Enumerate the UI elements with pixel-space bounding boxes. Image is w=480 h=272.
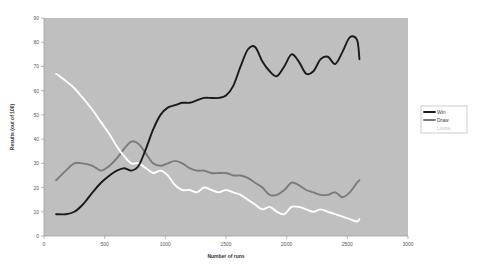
y-tick-label-2: 20 bbox=[33, 185, 39, 191]
y-tick-label-8: 80 bbox=[33, 39, 39, 45]
x-axis-title: Number of runs bbox=[207, 253, 244, 259]
y-axis-title: Results (out of 100) bbox=[9, 103, 15, 150]
legend-label-loose[interactable]: Loose bbox=[437, 125, 451, 131]
y-tick-label-1: 10 bbox=[33, 209, 39, 215]
x-tick-label-3: 1500 bbox=[220, 241, 231, 247]
legend-label-win[interactable]: Win bbox=[437, 109, 446, 115]
y-tick-label-9: 90 bbox=[33, 15, 39, 21]
y-tick-label-6: 60 bbox=[33, 88, 39, 94]
y-tick-label-3: 30 bbox=[33, 160, 39, 166]
legend-label-draw[interactable]: Draw bbox=[437, 117, 449, 123]
y-tick-label-4: 40 bbox=[33, 136, 39, 142]
x-tick-label-4: 2000 bbox=[281, 241, 292, 247]
y-tick-label-0: 0 bbox=[36, 233, 39, 239]
line-chart: 0102030405060708090 05001000150020002500… bbox=[0, 0, 480, 272]
y-tick-label-5: 50 bbox=[33, 112, 39, 118]
legend[interactable]: WinDrawLoose bbox=[421, 106, 467, 133]
y-tick-label-7: 70 bbox=[33, 63, 39, 69]
x-tick-label-1: 500 bbox=[100, 241, 109, 247]
x-tick-label-2: 1000 bbox=[160, 241, 171, 247]
x-tick-label-0: 0 bbox=[43, 241, 46, 247]
x-tick-label-5: 2500 bbox=[342, 241, 353, 247]
plot-area-background bbox=[44, 18, 408, 236]
x-tick-label-6: 3000 bbox=[402, 241, 413, 247]
chart-container: 0102030405060708090 05001000150020002500… bbox=[0, 0, 480, 272]
